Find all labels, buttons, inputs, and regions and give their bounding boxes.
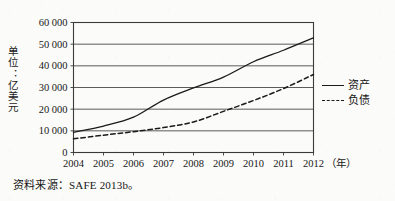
x-unit-text: （年）	[326, 157, 356, 169]
legend-label-assets: 资产	[348, 80, 370, 91]
gridlines	[74, 23, 314, 131]
y-tick-label: 60 000	[39, 17, 68, 28]
series-line-assets	[74, 38, 314, 132]
y-tick-label: 10 000	[39, 125, 68, 136]
source-note: 资料来源：SAFE 2013b。	[13, 176, 139, 192]
y-tick-label: 50 000	[39, 39, 68, 50]
x-tick-label: 2011	[273, 158, 294, 169]
x-tick-label: 2009	[213, 158, 234, 169]
x-axis-ticks: 200420052006200720082009201020112012	[63, 153, 324, 169]
x-axis-unit-label: （年）	[326, 157, 356, 169]
x-tick-label: 2006	[123, 158, 144, 169]
y-tick-label: 20 000	[39, 104, 68, 115]
legend-item-liabilities: 负债	[322, 93, 392, 108]
y-axis-ticks: 010 00020 00030 00040 00050 00060 000	[39, 17, 74, 158]
legend-label-liabilities: 负债	[348, 95, 370, 106]
chart-legend: 资产 负债	[322, 78, 392, 108]
legend-line-solid-icon	[322, 85, 344, 86]
x-tick-label: 2005	[93, 158, 114, 169]
y-tick-label: 30 000	[39, 82, 68, 93]
figure-container: 单位：亿美元 010 00020 00030 00040 00050 00060…	[0, 0, 395, 201]
x-tick-label: 2012	[303, 158, 324, 169]
legend-item-assets: 资产	[322, 78, 392, 93]
y-tick-label: 40 000	[39, 60, 68, 71]
y-tick-label: 0	[62, 147, 67, 158]
x-tick-label: 2008	[183, 158, 204, 169]
x-tick-label: 2007	[153, 158, 174, 169]
x-tick-label: 2004	[63, 158, 85, 169]
legend-line-dashed-icon	[322, 100, 344, 101]
series-lines	[74, 38, 314, 139]
series-line-liabilities	[74, 75, 314, 139]
x-tick-label: 2010	[243, 158, 264, 169]
